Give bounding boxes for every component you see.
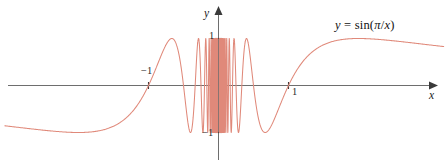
x-tick-label-one: 1 (292, 87, 297, 98)
y-tick-label-one: 1 (209, 31, 214, 42)
figure-canvas: y x 1 −1 −1 1 y = sin(π/x) (0, 0, 448, 166)
equation-function-name: sin (355, 18, 370, 32)
y-axis-arrowhead (215, 6, 223, 15)
y-axis-label: y (204, 8, 209, 20)
x-tick-label-negative-one: −1 (141, 66, 152, 77)
equation-annotation: y = sin(π/x) (335, 19, 395, 32)
y-tick-label-negative-one: −1 (202, 128, 213, 139)
equation-close-paren: ) (390, 18, 394, 32)
x-axis-label: x (429, 90, 434, 102)
